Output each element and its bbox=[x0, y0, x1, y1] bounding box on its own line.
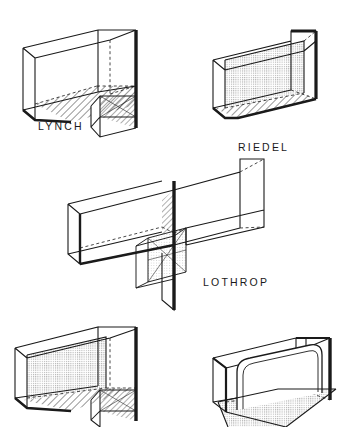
figure-lothrop: LOTHROP bbox=[68, 159, 269, 310]
bl-leg-fill bbox=[100, 390, 136, 421]
figure-label-lothrop: LOTHROP bbox=[203, 276, 269, 288]
diagram-plate: LYNCH RIEDEL LOTHROP bbox=[0, 0, 343, 427]
figure-riedel: RIEDEL bbox=[213, 31, 316, 153]
figure-lynch: LYNCH bbox=[23, 30, 136, 137]
figure-label-riedel: RIEDEL bbox=[238, 141, 289, 153]
lynch-leg-fill bbox=[100, 96, 136, 128]
lothrop-right-beam bbox=[174, 159, 264, 245]
figure-bottom-right bbox=[213, 338, 336, 427]
figure-bottom-left bbox=[15, 327, 136, 427]
figure-label-lynch: LYNCH bbox=[38, 120, 84, 132]
